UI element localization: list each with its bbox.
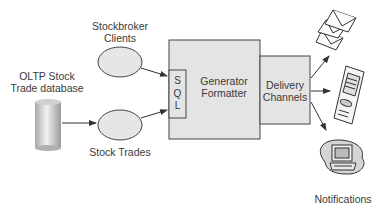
database-cylinder-icon — [35, 99, 61, 151]
stock-trades-label: Stock Trades — [85, 146, 155, 158]
arrow-clients-to-sql — [141, 68, 167, 76]
stockbroker-clients-label-line1: Stockbroker — [85, 20, 155, 32]
stock-trades-node — [98, 110, 142, 140]
stockbroker-clients-label-line2: Clients — [85, 32, 155, 44]
sql-letter-q: Q — [169, 88, 186, 101]
computer-icon — [320, 140, 364, 174]
arrow-to-email — [311, 56, 329, 78]
sql-label: S Q L — [169, 75, 186, 113]
mobile-phone-icon — [334, 66, 364, 124]
oltp-db-label-line1: OLTP Stock — [4, 70, 90, 82]
generator-label: Generator — [188, 75, 260, 87]
delivery-channels-label: Delivery Channels — [260, 79, 310, 103]
channels-label: Channels — [260, 91, 310, 103]
arrow-to-notifications — [311, 102, 326, 130]
generator-formatter-label: Generator Formatter — [188, 75, 260, 99]
stockbroker-clients-label: Stockbroker Clients — [85, 20, 155, 44]
sql-letter-s: S — [169, 75, 186, 88]
oltp-db-label: OLTP Stock Trade database — [4, 70, 90, 94]
formatter-label: Formatter — [188, 87, 260, 99]
envelope-icon — [316, 10, 356, 50]
oltp-db-label-line2: Trade database — [4, 82, 90, 94]
delivery-label: Delivery — [260, 79, 310, 91]
diagram-canvas — [0, 0, 378, 212]
arrow-trades-to-sql — [141, 110, 167, 118]
notifications-label: Notifications — [310, 193, 376, 205]
stockbroker-clients-node — [98, 47, 142, 77]
sql-letter-l: L — [169, 100, 186, 113]
